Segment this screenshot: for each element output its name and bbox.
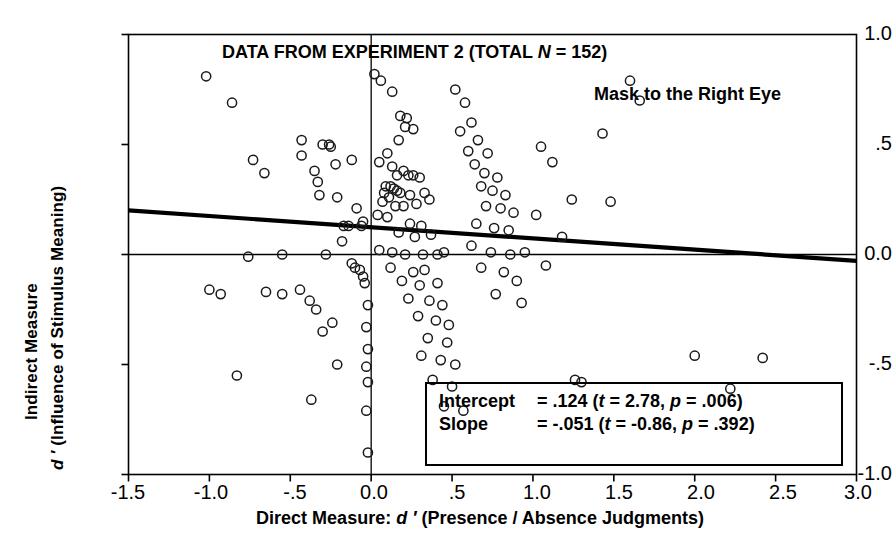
data-point [312, 305, 321, 314]
data-point [517, 298, 526, 307]
data-point [625, 76, 634, 85]
data-point [244, 252, 253, 261]
data-point [205, 285, 214, 294]
stats-row-slope: Slope= -.051 (t = -0.86, p = .392) [439, 413, 831, 436]
data-point [488, 186, 497, 195]
data-point [420, 188, 429, 197]
data-point [758, 353, 767, 362]
data-point [420, 265, 429, 274]
data-point [598, 129, 607, 138]
data-point [409, 268, 418, 277]
data-point [404, 294, 413, 303]
stats-intercept-p-value: = .006) [681, 391, 743, 411]
data-point [388, 248, 397, 257]
scatter-chart-figure: Indirect Measure d ′ (Influence of Stimu… [0, 0, 892, 551]
data-point [606, 197, 615, 206]
data-point [477, 182, 486, 191]
data-point [331, 160, 340, 169]
data-point [443, 338, 452, 347]
data-point [248, 155, 257, 164]
data-point [690, 351, 699, 360]
data-point [504, 226, 513, 235]
data-point [328, 318, 337, 327]
data-point [425, 296, 434, 305]
data-point [352, 204, 361, 213]
data-point [473, 136, 482, 145]
data-point [480, 169, 489, 178]
data-point [362, 362, 371, 371]
stats-slope-p-symbol: p [682, 414, 693, 434]
data-point [333, 193, 342, 202]
data-point [423, 334, 432, 343]
data-point [216, 290, 225, 299]
data-point [520, 248, 529, 257]
y-axis-ticks [122, 35, 129, 475]
data-point [460, 98, 469, 107]
data-point [496, 204, 505, 213]
data-point [532, 210, 541, 219]
data-point [397, 276, 406, 285]
data-point [232, 371, 241, 380]
data-point [451, 85, 460, 94]
data-point [467, 241, 476, 250]
data-point [375, 246, 384, 255]
data-point [451, 360, 460, 369]
data-point [202, 72, 211, 81]
data-point [318, 327, 327, 336]
stats-slope-p-value: = .392) [693, 414, 755, 434]
data-point [337, 237, 346, 246]
data-point [373, 210, 382, 219]
data-point [425, 195, 434, 204]
data-point [438, 301, 447, 310]
data-point [490, 224, 499, 233]
data-point [512, 276, 521, 285]
data-point [635, 96, 644, 105]
data-point [394, 136, 403, 145]
data-point [360, 279, 369, 288]
data-point [536, 142, 545, 151]
data-point [541, 261, 550, 270]
data-point [347, 155, 356, 164]
data-point [375, 158, 384, 167]
data-point [477, 263, 486, 272]
data-point [467, 118, 476, 127]
stats-intercept-t-value: = 2.78, [605, 391, 671, 411]
data-point [313, 177, 322, 186]
data-point [483, 149, 492, 158]
plot-canvas [0, 0, 892, 551]
data-point [509, 208, 518, 217]
data-point [278, 290, 287, 299]
data-point [410, 232, 419, 241]
data-point [486, 248, 495, 257]
data-point [378, 197, 387, 206]
data-point [431, 316, 440, 325]
data-point [436, 356, 445, 365]
data-point [362, 323, 371, 332]
data-point [386, 263, 395, 272]
data-point [260, 169, 269, 178]
data-point [376, 76, 385, 85]
data-point [548, 158, 557, 167]
data-point [491, 290, 500, 299]
stats-row-intercept: Intercept= .124 (t = 2.78, p = .006) [439, 390, 831, 413]
data-point [470, 160, 479, 169]
data-point [405, 219, 414, 228]
data-point [315, 191, 324, 200]
data-point [433, 279, 442, 288]
data-point [415, 281, 424, 290]
data-point [333, 360, 342, 369]
data-point [412, 199, 421, 208]
data-point [405, 191, 414, 200]
stats-intercept-label: Intercept [439, 390, 537, 413]
data-point [295, 285, 304, 294]
data-point [383, 149, 392, 158]
x-axis-ticks [129, 475, 857, 482]
data-point [499, 268, 508, 277]
data-point [388, 162, 397, 171]
stats-slope-label: Slope [439, 413, 537, 436]
data-point [464, 147, 473, 156]
data-point [297, 136, 306, 145]
data-point [362, 406, 371, 415]
data-point [417, 351, 426, 360]
stats-intercept-p-symbol: p [670, 391, 681, 411]
